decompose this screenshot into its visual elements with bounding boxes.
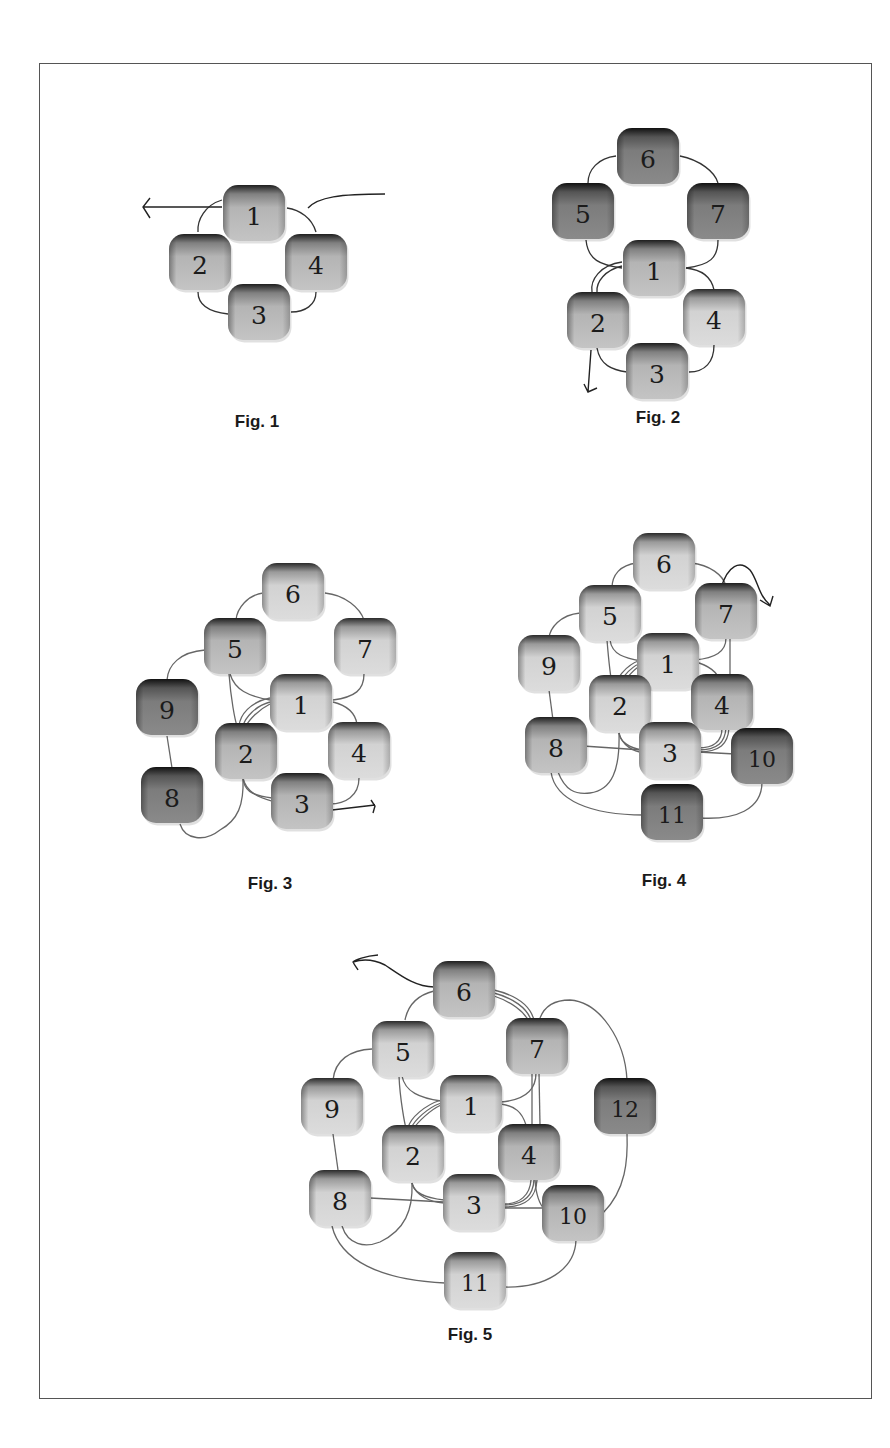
node-label: 9 xyxy=(159,696,175,725)
edge-line xyxy=(689,345,714,372)
edge-line xyxy=(549,613,580,638)
node-label: 6 xyxy=(285,580,301,609)
node-6: 6 xyxy=(633,533,697,592)
node-label: 1 xyxy=(646,257,662,286)
node-10: 10 xyxy=(542,1185,606,1244)
edge-line xyxy=(333,674,364,700)
node-9: 9 xyxy=(301,1078,365,1137)
node-label: 5 xyxy=(395,1038,411,1067)
figures-canvas: 1243657124365791248365791248310116579112… xyxy=(0,0,890,1448)
node-7: 7 xyxy=(695,583,759,642)
node-4: 4 xyxy=(498,1124,562,1183)
edge-line xyxy=(414,1105,441,1128)
node-label: 10 xyxy=(748,747,776,772)
edge-line xyxy=(603,1133,627,1213)
node-11: 11 xyxy=(641,784,705,843)
edge-line xyxy=(698,752,735,754)
node-3: 3 xyxy=(443,1174,507,1233)
fig5-caption: Fig. 5 xyxy=(448,1325,492,1345)
node-label: 10 xyxy=(559,1204,587,1229)
node-label: 1 xyxy=(293,691,309,720)
node-label: 6 xyxy=(456,978,472,1007)
node-label: 7 xyxy=(710,200,726,229)
edge-line xyxy=(167,736,172,768)
edge-line xyxy=(680,156,718,183)
edge-line xyxy=(549,690,553,720)
node-4: 4 xyxy=(691,674,755,733)
edge-line xyxy=(501,1073,536,1102)
node-5: 5 xyxy=(579,585,643,644)
node-label: 2 xyxy=(612,692,628,721)
node-label: 1 xyxy=(246,202,262,231)
node-1: 1 xyxy=(270,674,334,733)
node-2: 2 xyxy=(169,234,233,293)
node-label: 9 xyxy=(324,1095,340,1124)
node-label: 7 xyxy=(529,1035,545,1064)
node-label: 3 xyxy=(294,790,310,819)
edge-line xyxy=(287,208,316,232)
node-7: 7 xyxy=(506,1018,570,1077)
node-3: 3 xyxy=(228,284,292,343)
fig4-caption: Fig. 4 xyxy=(642,871,686,891)
node-label: 4 xyxy=(706,306,722,335)
node-label: 4 xyxy=(521,1141,537,1170)
edge-line xyxy=(198,200,222,232)
node-label: 5 xyxy=(602,602,618,631)
node-label: 9 xyxy=(541,652,557,681)
arrow-icon xyxy=(353,955,434,987)
edge-line xyxy=(198,292,228,314)
node-label: 2 xyxy=(590,309,606,338)
edge-line xyxy=(505,1240,576,1287)
edge-line xyxy=(586,240,622,268)
node-9: 9 xyxy=(136,679,200,738)
node-label: 3 xyxy=(466,1191,482,1220)
node-3: 3 xyxy=(626,343,690,402)
node-2: 2 xyxy=(215,723,279,782)
edge-line xyxy=(700,782,762,818)
node-label: 8 xyxy=(332,1187,348,1216)
node-label: 1 xyxy=(660,650,676,679)
edge-line xyxy=(539,1073,540,1125)
node-label: 2 xyxy=(238,740,254,769)
edge-line xyxy=(291,292,316,312)
node-label: 3 xyxy=(662,739,678,768)
node-8: 8 xyxy=(525,717,589,776)
node-label: 6 xyxy=(656,550,672,579)
edge-line xyxy=(333,1049,372,1080)
node-10: 10 xyxy=(731,728,795,787)
arrow-icon xyxy=(308,194,385,208)
node-8: 8 xyxy=(309,1170,373,1229)
edge-line xyxy=(325,593,364,620)
node-label: 2 xyxy=(405,1142,421,1171)
fig2-caption: Fig. 2 xyxy=(636,408,680,428)
node-2: 2 xyxy=(589,675,653,734)
fig3-nodes: 657912483 xyxy=(136,563,398,832)
node-2: 2 xyxy=(382,1125,446,1184)
node-4: 4 xyxy=(328,722,392,781)
node-label: 11 xyxy=(461,1271,489,1296)
node-label: 11 xyxy=(658,803,686,828)
edge-line xyxy=(236,593,263,620)
fig1-nodes: 1243 xyxy=(169,185,349,343)
node-4: 4 xyxy=(285,234,349,293)
edge-line xyxy=(333,702,357,724)
arrow-icon xyxy=(143,198,222,218)
fig2-nodes: 6571243 xyxy=(552,128,751,402)
node-label: 8 xyxy=(548,734,564,763)
node-label: 8 xyxy=(164,784,180,813)
edge-line xyxy=(686,268,714,290)
node-label: 5 xyxy=(575,200,591,229)
edge-line xyxy=(592,262,622,292)
edge-line xyxy=(332,1226,445,1283)
fig1-caption: Fig. 1 xyxy=(235,412,279,432)
edge-line xyxy=(239,698,270,726)
node-label: 7 xyxy=(718,600,734,629)
edge-line xyxy=(504,1180,531,1204)
node-9: 9 xyxy=(518,635,582,694)
node-label: 5 xyxy=(227,635,243,664)
node-2: 2 xyxy=(567,292,631,351)
node-label: 1 xyxy=(463,1092,479,1121)
edge-line xyxy=(402,1076,441,1101)
node-label: 4 xyxy=(351,739,367,768)
node-1: 1 xyxy=(440,1075,504,1134)
